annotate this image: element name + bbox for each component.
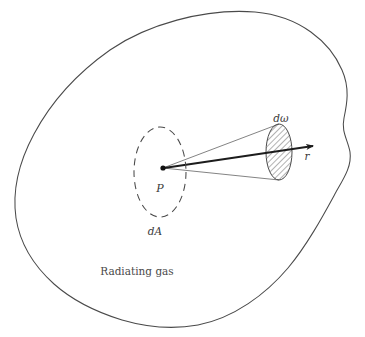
area-element-label: dA	[148, 225, 163, 237]
radiation-diagram-figure: P dA dω r Radiating gas	[0, 0, 365, 337]
radiating-gas-boundary	[15, 11, 350, 327]
cone-upper-generator	[163, 124, 279, 168]
medium-label: Radiating gas	[100, 265, 174, 277]
diagram-canvas: P dA dω r Radiating gas	[0, 0, 365, 337]
cone-lower-generator	[163, 168, 279, 180]
solid-angle-label: dω	[273, 112, 289, 124]
point-p-label: P	[155, 182, 164, 195]
area-element-dA-ellipse	[134, 127, 186, 217]
radius-vector-label: r	[304, 150, 310, 162]
point-p-marker	[160, 165, 165, 170]
